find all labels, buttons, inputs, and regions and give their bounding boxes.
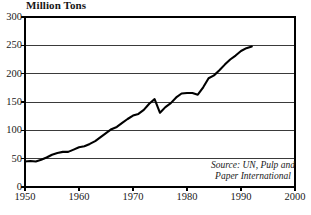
chart-title: Million Tons — [26, 0, 86, 11]
x-axis-tick-label: 1960 — [69, 192, 90, 203]
y-axis-tick-label: 50 — [0, 154, 22, 165]
source-line-2: Paper International — [211, 171, 295, 182]
source-annotation: Source: UN, Pulp and Paper International — [211, 160, 295, 182]
source-line-1: Source: UN, Pulp and — [211, 160, 295, 171]
chart-container: Million Tons 050100150200250300 19501960… — [0, 0, 311, 215]
y-axis-tick-label: 300 — [0, 12, 22, 23]
x-axis-tick-label: 2000 — [285, 192, 306, 203]
y-axis-tick-label: 150 — [0, 97, 22, 108]
chart-plot-area — [0, 0, 311, 215]
y-axis-tick-label: 250 — [0, 40, 22, 51]
x-axis-tick-label: 1990 — [231, 192, 252, 203]
x-axis-tick-label: 1970 — [123, 192, 144, 203]
series-line — [25, 46, 252, 161]
x-axis-tick-label: 1980 — [177, 192, 198, 203]
data-series-line — [25, 46, 252, 161]
gridlines — [25, 45, 295, 158]
x-axis-tick-label: 1950 — [15, 192, 36, 203]
y-axis-tick-label: 100 — [0, 125, 22, 136]
y-axis-tick-label: 200 — [0, 69, 22, 80]
